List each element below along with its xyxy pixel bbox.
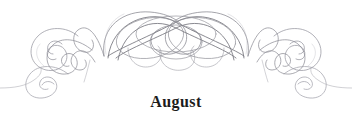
left-tail-line — [0, 68, 41, 88]
right-large-spiral — [274, 29, 321, 71]
left-large-spiral — [31, 29, 78, 71]
ornament-page: August — [0, 0, 352, 128]
month-caption: August — [0, 92, 352, 112]
knot-outer-loops — [104, 12, 249, 56]
right-tail-line — [311, 68, 352, 88]
right-connector-stroke — [262, 60, 268, 82]
left-connector-stroke — [84, 60, 90, 82]
knot-lower-scallops — [128, 46, 224, 70]
